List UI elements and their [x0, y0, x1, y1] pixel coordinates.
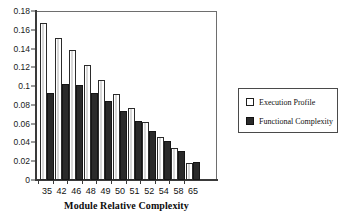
- plot-area: [37, 11, 216, 180]
- x-axis-tick-mark: [82, 180, 83, 184]
- y-axis-tick-mark: [31, 11, 35, 12]
- bar-functional-complexity: [120, 111, 127, 180]
- bar-group: [98, 11, 112, 180]
- x-axis-tick-mark: [169, 180, 170, 184]
- x-axis-tick-mark: [155, 180, 156, 184]
- legend-label: Execution Profile: [259, 98, 315, 107]
- x-axis-tick-label: 48: [86, 186, 96, 196]
- y-axis-tick-mark: [31, 142, 35, 143]
- y-axis-tick-mark: [31, 86, 35, 87]
- y-axis-tick-mark: [31, 123, 35, 124]
- y-axis-tick-label: 0.02: [13, 156, 30, 166]
- bar-functional-complexity: [178, 151, 185, 180]
- y-axis-tick-label: 0: [25, 175, 30, 185]
- y-axis-tick-mark: [31, 67, 35, 68]
- bar-execution-profile: [171, 148, 178, 180]
- x-axis-tick-mark: [38, 180, 39, 184]
- x-axis-tick-label: 58: [173, 186, 183, 196]
- bar-execution-profile: [98, 80, 105, 180]
- x-axis-tick-label: 50: [115, 186, 125, 196]
- x-axis-tick-label: 49: [100, 186, 110, 196]
- x-axis-tick-label: 35: [42, 186, 52, 196]
- bar-functional-complexity: [62, 84, 69, 180]
- legend-item-functional-complexity: Functional Complexity: [246, 115, 333, 127]
- y-axis-tick-label: 0.16: [13, 25, 30, 35]
- x-axis-tick-label: 42: [57, 186, 67, 196]
- y-axis-tick-label: 0.1: [18, 81, 30, 91]
- bar-functional-complexity: [47, 93, 54, 180]
- bar-group: [113, 11, 127, 180]
- y-axis-tick-label: 0.08: [13, 100, 30, 110]
- bar-execution-profile: [40, 23, 47, 180]
- bar-functional-complexity: [164, 141, 171, 180]
- bar-group: [55, 11, 69, 180]
- x-axis-tick-mark: [140, 180, 141, 184]
- y-axis-tick-label: 0.04: [13, 137, 30, 147]
- bar-group: [40, 11, 54, 180]
- bar-execution-profile: [142, 122, 149, 180]
- chart-legend: Execution Profile Functional Complexity: [238, 88, 338, 133]
- y-axis-tick-label: 0.14: [13, 44, 30, 54]
- x-axis-title: Module Relative Complexity: [36, 200, 217, 211]
- bar-group: [128, 11, 142, 180]
- bar-execution-profile: [84, 65, 91, 180]
- y-axis-tick-mark: [31, 29, 35, 30]
- x-axis-tick-mark: [67, 180, 68, 184]
- x-axis-tick-label: 54: [159, 186, 169, 196]
- legend-swatch-filled-icon: [246, 117, 254, 125]
- y-axis-tick-mark: [31, 161, 35, 162]
- bar-execution-profile: [157, 137, 164, 180]
- chart-screenshot: 00.020.040.060.080.10.120.140.160.18 354…: [0, 0, 351, 221]
- bar-execution-profile: [113, 94, 120, 180]
- x-axis-tick-label: 51: [130, 186, 140, 196]
- y-axis-tick-mark: [31, 48, 35, 49]
- y-axis-tick-mark: [31, 104, 35, 105]
- x-axis-tick-mark: [96, 180, 97, 184]
- x-axis-tick-label: 46: [71, 186, 81, 196]
- bar-functional-complexity: [76, 85, 83, 180]
- x-axis-tick-mark: [111, 180, 112, 184]
- bar-functional-complexity: [149, 131, 156, 180]
- bar-execution-profile: [128, 108, 135, 180]
- x-axis-tick-label: 65: [188, 186, 198, 196]
- x-axis-tick-mark: [184, 180, 185, 184]
- x-axis-tick-label: 52: [144, 186, 154, 196]
- bar-chart-figure: 00.020.040.060.080.10.120.140.160.18 354…: [0, 0, 222, 221]
- bar-execution-profile: [186, 163, 193, 180]
- bar-functional-complexity: [135, 121, 142, 180]
- bar-group: [84, 11, 98, 180]
- legend-swatch-open-icon: [246, 98, 254, 106]
- bar-execution-profile: [69, 50, 76, 180]
- y-axis-tick-label: 0.18: [13, 6, 30, 16]
- y-axis-tick-mark: [31, 180, 35, 181]
- bar-functional-complexity: [105, 101, 112, 180]
- bar-group: [186, 11, 200, 180]
- bar-group: [69, 11, 83, 180]
- x-axis-tick-mark: [53, 180, 54, 184]
- legend-label: Functional Complexity: [259, 117, 333, 126]
- bar-group: [142, 11, 156, 180]
- bar-group: [157, 11, 171, 180]
- bar-functional-complexity: [91, 93, 98, 180]
- x-axis-tick-mark: [126, 180, 127, 184]
- legend-item-execution-profile: Execution Profile: [246, 96, 315, 108]
- bar-group: [171, 11, 185, 180]
- y-axis-tick-label: 0.06: [13, 119, 30, 129]
- y-axis-tick-label: 0.12: [13, 62, 30, 72]
- y-axis-tick-labels: 00.020.040.060.080.10.120.140.160.18: [0, 0, 30, 221]
- bar-functional-complexity: [193, 162, 200, 180]
- bar-execution-profile: [55, 38, 62, 180]
